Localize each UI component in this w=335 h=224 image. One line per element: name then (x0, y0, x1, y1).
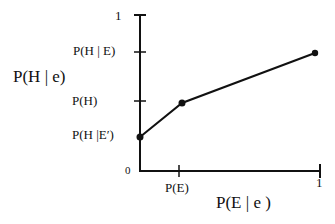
y-tick-label-1: 1 (115, 9, 122, 22)
x-axis-title: P(E | e ) (216, 194, 271, 211)
data-line (140, 53, 315, 137)
x-tick-label-p-e: P(E) (165, 181, 189, 194)
data-point-p-h (179, 100, 186, 107)
data-point-p-h-given-e (312, 50, 318, 56)
y-tick-label-p-h-given-not-e: P(H |E′) (72, 128, 114, 141)
x-tick-label-1: 1 (316, 176, 323, 189)
y-axis-title: P(H | e) (13, 68, 66, 85)
y-tick-label-0: 0 (125, 165, 131, 176)
data-point-p-h-given-not-e (137, 134, 144, 141)
y-tick-label-p-h: P(H) (72, 94, 97, 107)
y-tick-label-p-h-given-e: P(H | E) (73, 44, 115, 57)
